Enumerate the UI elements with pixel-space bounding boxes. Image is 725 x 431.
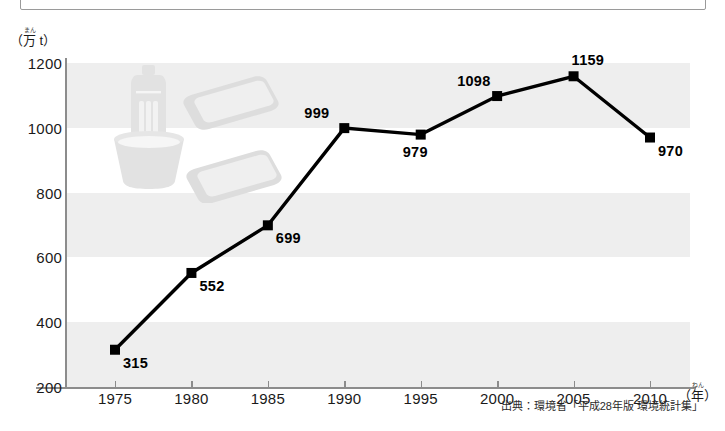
data-point-marker — [492, 91, 502, 101]
data-point-marker — [186, 268, 196, 278]
data-point-value-label: 552 — [199, 279, 224, 294]
plastic-production-line-chart: 12001000800600400200 （まん万 t） （ねん年） 19751… — [0, 0, 725, 431]
data-point-value-label: 1098 — [457, 74, 490, 89]
data-point-value-label: 315 — [123, 356, 148, 371]
series-markers — [110, 71, 655, 354]
data-point-value-label: 979 — [403, 145, 428, 160]
data-point-value-label: 999 — [304, 106, 329, 121]
data-point-marker — [110, 345, 120, 355]
data-point-marker — [645, 133, 655, 143]
data-point-marker — [263, 220, 273, 230]
source-note: 出典：環境省「平成28年版 環境統計集」 — [501, 400, 703, 413]
series-line — [115, 76, 650, 349]
data-series-layer — [0, 0, 725, 431]
data-point-value-label: 1159 — [572, 53, 605, 68]
data-point-marker — [339, 123, 349, 133]
data-point-value-label: 699 — [276, 231, 301, 246]
data-point-marker — [569, 71, 579, 81]
data-point-marker — [416, 130, 426, 140]
data-point-value-label: 970 — [658, 144, 683, 159]
